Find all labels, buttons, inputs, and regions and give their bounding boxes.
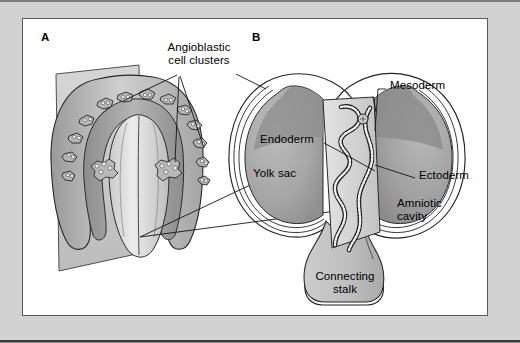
label-yolk-sac: Yolk sac	[253, 167, 296, 180]
panel-a-illustration	[51, 65, 210, 271]
figure-plate: A B Angioblastic cell clusters Mesoderm …	[22, 18, 488, 316]
label-angioblastic-line1: Angioblastic	[151, 41, 247, 54]
leader-angioblastic-to-b	[236, 74, 266, 89]
panel-letter-a: A	[41, 31, 49, 43]
figure-root: A B Angioblastic cell clusters Mesoderm …	[0, 0, 520, 343]
label-amniotic-cavity-line2: cavity	[397, 210, 427, 223]
page-bottom-rule	[0, 339, 520, 343]
label-ectoderm: Ectoderm	[419, 169, 469, 182]
label-angioblastic-line2: cell clusters	[151, 54, 247, 67]
embryonic-disc-slab	[323, 97, 380, 248]
label-connecting-stalk-line1: Connecting	[304, 270, 386, 283]
panel-letter-b: B	[252, 31, 260, 43]
label-endoderm: Endoderm	[260, 133, 314, 146]
label-amniotic-cavity-line1: Amniotic	[397, 197, 442, 210]
label-connecting-stalk-line2: stalk	[304, 283, 386, 296]
label-mesoderm: Mesoderm	[390, 79, 445, 92]
